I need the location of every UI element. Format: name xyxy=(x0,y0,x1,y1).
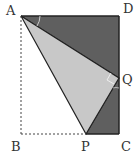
label-b: B xyxy=(11,139,21,154)
geometry-diagram: A D Q B P C xyxy=(0,0,140,156)
label-c: C xyxy=(121,139,131,154)
label-p: P xyxy=(81,139,90,154)
label-d: D xyxy=(123,1,133,16)
label-q: Q xyxy=(122,72,133,87)
label-a: A xyxy=(5,3,16,18)
